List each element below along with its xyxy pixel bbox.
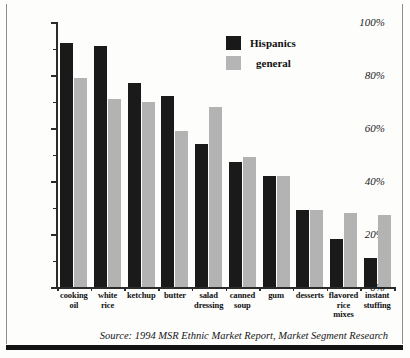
bar-group (327, 22, 361, 287)
frame-rule-left (6, 4, 7, 344)
bar-group (293, 22, 327, 287)
x-axis-label: flavoredricemixes (327, 291, 361, 320)
bar-hispanics (195, 144, 208, 287)
bar-hispanics (161, 96, 174, 287)
y-tick-major (51, 234, 56, 236)
y-tick-major (51, 287, 56, 289)
legend-item-hispanics: Hispanics (226, 33, 296, 53)
y-tick-minor (53, 208, 56, 210)
bar-general (108, 99, 121, 287)
y-tick-major (51, 128, 56, 130)
x-axis-label: desserts (293, 291, 327, 320)
y-tick-minor (53, 261, 56, 263)
bar-hispanics (229, 162, 242, 287)
bar-general (74, 78, 87, 287)
x-axis-labels: cookingoilwhitericeketchupbuttersaladdre… (57, 291, 394, 320)
y-tick-major (51, 22, 56, 24)
x-axis-label: saladdressing (192, 291, 226, 320)
x-axis-label: cookingoil (57, 291, 91, 320)
source-note: Source: 1994 MSR Ethnic Market Report, M… (0, 330, 396, 341)
x-tick (394, 287, 396, 291)
x-axis-label: butter (158, 291, 192, 320)
legend-swatch-hispanics (226, 36, 241, 50)
bar-general (344, 213, 357, 287)
frame-rule-bottom (6, 345, 403, 350)
y-tick-major (51, 75, 56, 77)
bar-hispanics (128, 83, 141, 287)
legend-label-general: general (256, 57, 291, 69)
bar-general (142, 102, 155, 288)
bar-group (91, 22, 125, 287)
frame-rule-right (402, 4, 403, 344)
bar-group (192, 22, 226, 287)
legend-item-general: general (226, 53, 296, 73)
y-tick-minor (53, 102, 56, 104)
bar-group (124, 22, 158, 287)
bar-group (360, 22, 394, 287)
y-tick-minor (53, 155, 56, 157)
chart-figure: 0%20%40%60%80%100% cookingoilwhitericeke… (0, 0, 410, 358)
bar-general (310, 210, 323, 287)
legend: Hispanics general (226, 33, 296, 73)
plot-area: 0%20%40%60%80%100% (56, 22, 394, 287)
bar-general (277, 176, 290, 287)
bar-hispanics (263, 176, 276, 287)
bar-group (158, 22, 192, 287)
x-axis-label: whiterice (91, 291, 125, 320)
bar-hispanics (296, 210, 309, 287)
bar-general (243, 157, 256, 287)
y-tick-minor (53, 49, 56, 51)
bar-hispanics (364, 258, 377, 287)
legend-swatch-general (226, 56, 241, 70)
x-axis-label: instantstuffing (360, 291, 394, 320)
bar-general (378, 215, 391, 287)
bar-hispanics (94, 46, 107, 287)
bar-general (209, 107, 222, 287)
bar-group (57, 22, 91, 287)
x-axis-label: ketchup (124, 291, 158, 320)
bar-hispanics (60, 43, 73, 287)
legend-label-hispanics: Hispanics (250, 37, 296, 49)
y-tick-major (51, 181, 56, 183)
x-axis-label: gum (259, 291, 293, 320)
x-axis-label: cannedsoup (226, 291, 260, 320)
bar-general (175, 131, 188, 287)
bar-hispanics (330, 239, 343, 287)
